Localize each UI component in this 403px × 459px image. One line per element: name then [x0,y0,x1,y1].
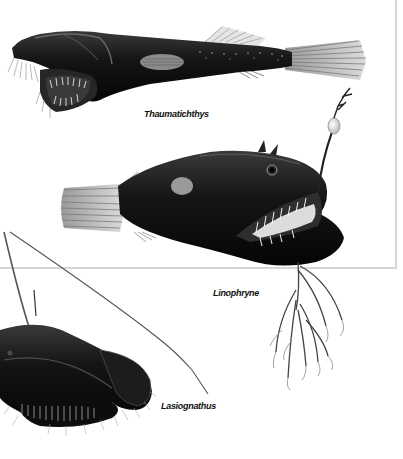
caption-thaumatichthys: Thaumatichthys [144,109,209,119]
illustration-page: Thaumatichthys Linophryne Lasiognathus [0,0,403,459]
caption-lasiognathus: Lasiognathus [161,401,216,411]
fish-thaumatichthys [8,26,366,118]
caption-linophryne: Linophryne [213,288,259,298]
fish-linophryne [61,88,352,390]
anglerfish-illustrations [0,0,403,459]
